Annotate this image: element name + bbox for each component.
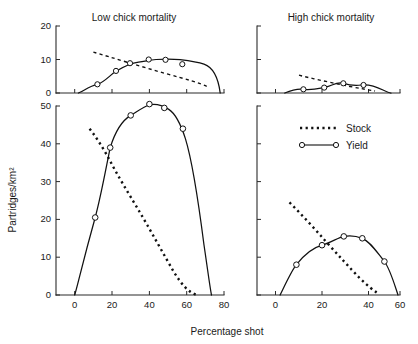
legend-item-stock[interactable]: Stock [300, 123, 372, 134]
legend-label-yield: Yield [346, 140, 368, 151]
legend-label-stock: Stock [346, 123, 372, 134]
data-point [301, 87, 306, 92]
data-point [360, 236, 366, 242]
top-right-y-ticks [257, 26, 261, 93]
data-point [95, 82, 100, 87]
bottom-left-yield-markers [92, 101, 185, 220]
y-axis-title-text: Partridges/km² [7, 167, 18, 233]
bottom-right-x-ticks: 0 20 40 60 [273, 291, 405, 310]
tick-label-y-20: 20 [40, 213, 51, 224]
data-point [382, 259, 388, 265]
tick-label-y-40: 40 [40, 138, 51, 149]
tick-label-x-80: 80 [219, 299, 230, 310]
data-point [162, 105, 168, 111]
tick-label-x-20: 20 [107, 299, 118, 310]
bottom-left-y-ticks: 0 10 20 30 40 50 [40, 100, 60, 300]
y-axis-title: Partridges/km² [7, 167, 18, 233]
x-axis-title-text: Percentage shot [191, 326, 264, 337]
data-point [147, 101, 153, 107]
legend-open-circle-icon [299, 142, 304, 147]
figure-root: Partridges/km² Percentage shot Low chick… [0, 0, 418, 344]
legend-open-circle-icon [333, 142, 338, 147]
data-point [146, 57, 151, 62]
data-point [92, 215, 98, 221]
panel-bottom-left: 0 10 20 30 40 50 0 20 40 60 80 [40, 100, 229, 310]
tick-label-x-60: 60 [181, 299, 192, 310]
data-point [163, 57, 168, 62]
tick-label-x-40: 40 [144, 299, 155, 310]
tick-label-y-10: 10 [40, 251, 51, 262]
panel-title-high-chick-mortality: High chick mortality [288, 12, 375, 23]
panel-bottom-right: 0 20 40 60 [257, 106, 405, 310]
panel-top-left: 0 10 20 [40, 20, 224, 98]
tick-label-x-20: 20 [317, 299, 328, 310]
data-point [107, 145, 113, 151]
tick-label-x-40: 40 [363, 299, 374, 310]
legend-item-yield[interactable]: Yield [299, 140, 367, 151]
top-left-yield-curve [78, 59, 220, 93]
panel-top-right [257, 26, 400, 93]
bottom-left-stock-curve [90, 129, 197, 295]
top-left-y-ticks: 0 10 20 [40, 20, 60, 98]
bottom-left-yield-curve [75, 104, 212, 295]
tick-label-x-0: 0 [273, 299, 278, 310]
data-point [127, 61, 132, 66]
top-left-x-ticks [75, 89, 224, 93]
bottom-right-y-ticks [257, 106, 261, 295]
data-point [180, 62, 185, 67]
data-point [361, 82, 366, 87]
data-point [319, 242, 325, 248]
tick-label-y-10: 10 [40, 54, 51, 65]
data-point [128, 113, 134, 119]
legend: Stock Yield [299, 123, 372, 151]
data-point [180, 126, 186, 132]
bottom-right-yield-markers [294, 234, 388, 268]
bottom-left-x-ticks: 0 20 40 60 80 [72, 291, 229, 310]
tick-label-y-0: 0 [46, 87, 51, 98]
data-point [341, 234, 347, 240]
tick-label-y-20: 20 [40, 20, 51, 31]
tick-label-y-30: 30 [40, 176, 51, 187]
data-point [294, 262, 300, 268]
panel-title-low-chick-mortality: Low chick mortality [92, 12, 176, 23]
data-point [322, 85, 327, 90]
data-point [341, 81, 346, 86]
partridge-yield-stock-figure: Partridges/km² Percentage shot Low chick… [0, 0, 418, 344]
tick-label-y-50: 50 [40, 100, 51, 111]
tick-label-y-0: 0 [46, 289, 51, 300]
data-point [113, 68, 118, 73]
tick-label-x-0: 0 [72, 299, 77, 310]
x-axis-title: Percentage shot [191, 326, 264, 337]
tick-label-x-60: 60 [395, 299, 406, 310]
bottom-right-stock-curve [290, 202, 379, 293]
